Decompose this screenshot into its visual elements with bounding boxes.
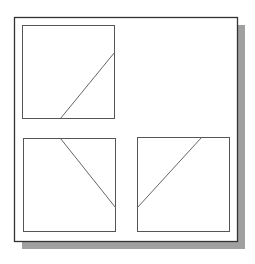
outer-frame xyxy=(15,18,238,242)
orthographic-views-diagram xyxy=(0,0,255,264)
diagram-canvas xyxy=(0,0,255,264)
